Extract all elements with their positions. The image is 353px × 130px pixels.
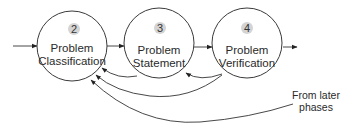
node-label-line1: Problem xyxy=(51,42,94,54)
process-diagram: 2 Problem Classification 3 Problem State… xyxy=(0,0,353,130)
node-problem-statement: 3 Problem Statement xyxy=(124,8,194,78)
node-label-line1: Problem xyxy=(138,44,181,56)
node-label-line2: Classification xyxy=(38,55,106,67)
later-phases-annotation: From later phases xyxy=(292,89,340,113)
step-number: 4 xyxy=(244,22,250,34)
node-label-line2: Statement xyxy=(133,57,186,69)
annotation-line1: From later xyxy=(292,89,340,101)
feedback-statement-to-classification xyxy=(102,68,137,77)
feedback-later-phases-to-classification xyxy=(91,80,293,122)
node-problem-classification: 2 Problem Classification xyxy=(37,11,107,81)
step-number: 2 xyxy=(71,23,77,35)
node-label-line1: Problem xyxy=(226,44,269,56)
node-problem-verification: 4 Problem Verification xyxy=(212,8,282,78)
step-number: 3 xyxy=(157,22,163,34)
feedback-verification-to-statement xyxy=(186,73,222,78)
node-label-line2: Verification xyxy=(219,57,275,69)
annotation-line2: phases xyxy=(299,101,333,113)
